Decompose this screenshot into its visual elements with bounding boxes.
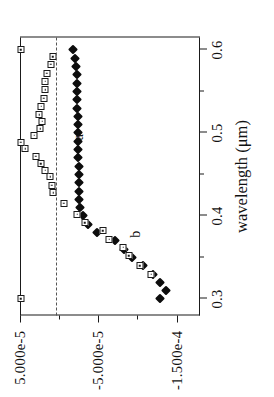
data-point-b-16 (22, 145, 29, 152)
plot-frame-right-border (20, 36, 200, 37)
data-point-b-9 (60, 199, 67, 206)
y-tick-label-1: -5.000e-5 (90, 330, 107, 390)
x-tick-minor-1 (200, 173, 204, 174)
data-point-b-29 (17, 46, 24, 53)
y-tick-major-1 (98, 315, 99, 322)
data-point-b-26 (43, 69, 50, 76)
y-tick-label-0: 5.000e-5 (12, 330, 29, 384)
data-point-b-21 (36, 111, 43, 118)
data-point-b-6 (99, 227, 106, 234)
data-point-b-7 (81, 219, 88, 226)
y-tick-label-2: -1.500e-4 (168, 330, 185, 390)
data-point-b-3 (125, 252, 132, 259)
x-tick-label-1: 0.4 (209, 206, 226, 225)
data-point-b-2 (136, 262, 143, 269)
data-point-b-14 (37, 160, 44, 167)
y-tick-major-0 (20, 315, 21, 322)
x-tick-label-2: 0.5 (209, 123, 226, 142)
x-tick-minor-2 (200, 90, 204, 91)
data-point-b-15 (32, 152, 39, 159)
series-label-a: a (71, 133, 87, 139)
x-tick-major-2 (200, 131, 207, 132)
data-point-b-8 (74, 210, 81, 217)
y-tick-minor-1 (137, 315, 138, 319)
data-point-b-20 (39, 117, 46, 124)
data-point-b-4 (120, 243, 127, 250)
data-point-b-22 (38, 102, 45, 109)
y-tick-major-2 (177, 315, 178, 322)
zero-reference-line (56, 37, 57, 315)
data-point-b-0 (17, 295, 24, 302)
x-tick-label-3: 0.6 (209, 40, 226, 59)
rotated-figure-container: 0.30.40.50.6 5.000e-5-5.000e-5-1.500e-4 … (0, 0, 274, 397)
data-point-b-28 (49, 53, 56, 60)
data-point-b-1 (148, 270, 155, 277)
data-point-b-12 (47, 173, 54, 180)
data-point-b-27 (47, 60, 54, 67)
series-label-b: b (128, 230, 144, 237)
x-tick-major-0 (200, 297, 207, 298)
data-point-b-11 (48, 181, 55, 188)
x-axis-title: wavelength (μm) (232, 120, 252, 233)
data-point-b-17 (17, 138, 24, 145)
data-point-b-19 (37, 125, 44, 132)
y-tick-minor-0 (59, 315, 60, 319)
data-point-b-24 (42, 86, 49, 93)
data-point-b-13 (42, 166, 49, 173)
data-point-b-23 (40, 94, 47, 101)
data-point-b-5 (106, 235, 113, 242)
x-tick-major-1 (200, 214, 207, 215)
plot-frame-top-border (20, 37, 21, 315)
x-tick-major-3 (200, 48, 207, 49)
data-point-b-18 (31, 131, 38, 138)
data-point-b-25 (42, 77, 49, 84)
x-tick-minor-0 (200, 256, 204, 257)
scatter-chart-figure: 0.30.40.50.6 5.000e-5-5.000e-5-1.500e-4 … (0, 0, 274, 397)
x-tick-label-0: 0.3 (209, 289, 226, 308)
data-point-b-10 (50, 189, 57, 196)
